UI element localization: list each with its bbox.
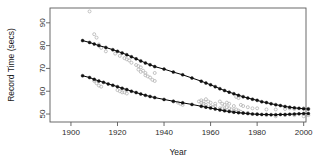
fitted-point [111, 48, 114, 51]
fitted-point [274, 103, 277, 106]
raw-point [88, 10, 91, 13]
fitted-point [88, 76, 91, 79]
raw-point [274, 108, 277, 111]
fitted-point [153, 65, 156, 68]
fitted-point [190, 77, 193, 80]
fitted-point [172, 71, 175, 74]
fitted-point [242, 112, 245, 115]
fitted-point [232, 92, 235, 95]
fitted-point [293, 113, 296, 116]
fitted-point [144, 94, 147, 97]
raw-point [251, 107, 254, 110]
fitted-point [107, 82, 110, 85]
fitted-point [190, 103, 193, 106]
chart-figure: 1900192019401960198020005060708090 Recor… [0, 0, 326, 162]
y-tick-label: 50 [39, 109, 48, 118]
fitted-point [139, 59, 142, 62]
fitted-point [139, 92, 142, 95]
fitted-point [293, 106, 296, 109]
fitted-point [116, 85, 119, 88]
fitted-point [209, 83, 212, 86]
raw-point [93, 33, 96, 36]
raw-points-layer [88, 10, 310, 118]
fitted-point [288, 113, 291, 116]
fitted-point [218, 87, 221, 90]
fitted-point [125, 53, 128, 56]
fitted-point [274, 113, 277, 116]
fitted-point [116, 50, 119, 53]
fitted-point [256, 113, 259, 116]
fitted-point [172, 100, 175, 103]
y-tick-label: 80 [39, 41, 48, 50]
fitted-point [125, 88, 128, 91]
tick-label-layer: 1900192019401960198020005060708090 [39, 18, 314, 137]
fitted-point [237, 111, 240, 114]
fitted-point [223, 89, 226, 92]
x-tick-label: 1960 [202, 128, 220, 137]
fitted-point [246, 112, 249, 115]
fitted-point [302, 112, 305, 115]
fitted-point [279, 113, 282, 116]
y-tick-label: 70 [39, 63, 48, 72]
fitted-point [265, 113, 268, 116]
fitted-point [214, 108, 217, 111]
fitted-point [81, 39, 84, 42]
raw-point [95, 36, 98, 39]
fitted-point [153, 96, 156, 99]
fitted-point [204, 82, 207, 85]
fitted-point [284, 113, 287, 116]
raw-point [118, 54, 121, 57]
fitted-point [265, 101, 268, 104]
x-tick-label: 1900 [62, 128, 80, 137]
fitted-point [302, 107, 305, 110]
fitted-point [200, 105, 203, 108]
fitted-point [228, 110, 231, 113]
y-axis-title: Record Time (secs) [6, 28, 16, 102]
fitted-point [97, 79, 100, 82]
fitted-point [102, 81, 105, 84]
raw-point [265, 108, 268, 111]
fitted-point [256, 99, 259, 102]
y-tick-label: 60 [39, 86, 48, 95]
fitted-point [135, 57, 138, 60]
x-tick-label: 1980 [248, 128, 266, 137]
fitted-point [298, 112, 301, 115]
fitted-point [260, 100, 263, 103]
fitted-point [88, 41, 91, 44]
fitted-point [242, 95, 245, 98]
fitted-point [93, 78, 96, 81]
fitted-point [81, 74, 84, 77]
raw-point [114, 52, 117, 55]
fitted-point [251, 98, 254, 101]
raw-point [104, 50, 107, 53]
x-tick-label: 1920 [109, 128, 127, 137]
fitted-point [104, 46, 107, 49]
fitted-point [135, 91, 138, 94]
fitted-point [93, 43, 96, 46]
fitted-point [163, 68, 166, 71]
fitted-point [121, 51, 124, 54]
x-tick-label: 2000 [295, 128, 313, 137]
fitted-point [209, 107, 212, 110]
fitted-point [260, 113, 263, 116]
fitted-point [181, 101, 184, 104]
fitted-point [223, 109, 226, 112]
x-axis-title: Year [169, 147, 186, 157]
fitted-point [307, 112, 310, 115]
fitted-point [284, 105, 287, 108]
raw-point [130, 61, 133, 64]
fitted-point [270, 102, 273, 105]
fitted-point [214, 85, 217, 88]
fitted-point [200, 80, 203, 83]
fitted-point [228, 91, 231, 94]
fitted-point [163, 98, 166, 101]
fitted-point [204, 106, 207, 109]
raw-point [256, 107, 259, 110]
fitted-point [181, 73, 184, 76]
chart-canvas: 1900192019401960198020005060708090 Recor… [0, 0, 326, 162]
fitted-point [251, 113, 254, 116]
y-tick-label: 90 [39, 18, 48, 27]
raw-point [232, 105, 235, 108]
fitted-point [149, 95, 152, 98]
x-tick-label: 1940 [155, 128, 173, 137]
